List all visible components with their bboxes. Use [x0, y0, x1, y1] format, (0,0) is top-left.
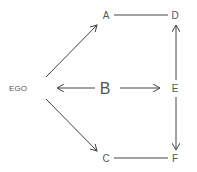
arrow-ego-to-c — [46, 99, 97, 151]
node-ego: EGO — [9, 84, 27, 93]
node-b: B — [100, 80, 111, 97]
node-f: F — [172, 153, 178, 164]
edges-group — [46, 15, 176, 158]
node-e: E — [172, 83, 179, 94]
node-d: D — [171, 10, 178, 21]
node-c: C — [102, 153, 109, 164]
network-diagram: EGOABCDEF — [0, 0, 197, 172]
nodes-group: EGOABCDEF — [9, 10, 179, 164]
node-a: A — [103, 10, 110, 21]
arrow-ego-to-a — [46, 25, 97, 77]
